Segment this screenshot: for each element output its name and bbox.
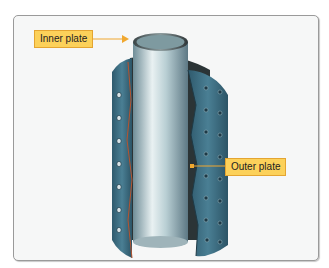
outer-plate-label: Outer plate bbox=[225, 158, 286, 176]
inner-plate-label: Inner plate bbox=[34, 30, 93, 48]
